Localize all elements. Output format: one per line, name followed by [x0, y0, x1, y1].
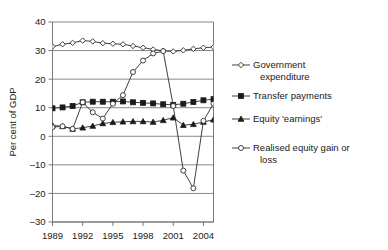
legend-label: Transfer payments: [253, 90, 332, 101]
y-tick-label: 20: [35, 74, 46, 85]
legend-marker-filled-square-icon: [239, 94, 244, 99]
data-point-marker: [80, 38, 85, 43]
data-point-marker: [151, 101, 156, 106]
data-point-marker: [191, 100, 196, 105]
legend-marker-open-diamond-icon: [238, 62, 243, 67]
x-tick-label: 1995: [102, 230, 123, 241]
y-tick-label: 40: [35, 16, 46, 27]
data-point-marker: [90, 110, 95, 115]
data-point-marker: [140, 45, 145, 50]
legend-item-2[interactable]: Equity 'earnings': [232, 113, 322, 124]
data-point-marker: [110, 101, 115, 106]
data-point-marker: [130, 43, 135, 48]
legend-label: Government: [253, 59, 306, 70]
legend-item-0[interactable]: Governmentexpenditure: [232, 59, 310, 81]
data-point-marker: [70, 104, 75, 109]
data-point-marker: [120, 42, 125, 47]
legend-marker-open-circle-icon: [239, 146, 244, 151]
data-point-marker: [50, 44, 55, 49]
data-point-marker: [70, 126, 75, 131]
data-point-marker: [60, 105, 65, 110]
data-point-marker: [60, 124, 65, 129]
data-point-marker: [141, 100, 146, 105]
data-point-marker: [90, 99, 95, 104]
x-tick-label: 1992: [72, 230, 93, 241]
legend-item-1[interactable]: Transfer payments: [232, 90, 332, 101]
legend-label: Realised equity gain or: [253, 142, 350, 153]
data-point-marker: [181, 168, 186, 173]
x-tick-label: 2001: [163, 230, 184, 241]
data-point-marker: [131, 70, 136, 75]
x-tick-label: 1989: [42, 230, 63, 241]
y-tick-label: 30: [35, 45, 46, 56]
data-point-marker: [171, 49, 176, 54]
data-point-marker: [161, 102, 166, 107]
data-point-marker: [161, 49, 166, 54]
data-point-marker: [50, 125, 55, 130]
data-point-marker: [50, 106, 55, 111]
y-tick-label: 0: [40, 131, 45, 142]
data-point-marker: [131, 100, 136, 105]
chart-figure: 403020100–10–20–30 198919921995199820012…: [0, 0, 388, 250]
y-tick-labels-group: 403020100–10–20–30: [30, 16, 46, 227]
x-tick-labels-group: 198919921995199820012004: [42, 230, 214, 241]
x-tick-label: 2004: [193, 230, 214, 241]
data-point-marker: [70, 40, 75, 45]
data-point-marker: [211, 101, 216, 106]
data-point-marker: [211, 117, 217, 122]
data-point-marker: [100, 40, 105, 45]
data-point-marker: [90, 39, 95, 44]
data-series-group: [50, 38, 217, 191]
data-point-marker: [151, 51, 156, 56]
y-tick-label: 10: [35, 102, 46, 113]
data-point-marker: [60, 42, 65, 47]
data-point-marker: [201, 98, 206, 103]
data-point-marker: [80, 100, 85, 105]
data-point-marker: [110, 41, 115, 46]
y-tick-label: –20: [30, 188, 46, 199]
legend-label: Equity 'earnings': [253, 113, 322, 124]
data-point-marker: [141, 58, 146, 63]
data-point-marker: [211, 44, 216, 49]
series-1: [50, 97, 216, 111]
y-tick-label: –10: [30, 159, 46, 170]
data-point-marker: [181, 48, 186, 53]
series-0: [50, 38, 216, 54]
y-axis-title: Per cent of GDP: [7, 87, 18, 156]
chart-canvas: 403020100–10–20–30 198919921995199820012…: [0, 0, 388, 250]
data-point-marker: [120, 93, 125, 98]
y-tick-label: –30: [30, 216, 46, 227]
data-point-marker: [201, 45, 206, 50]
data-point-marker: [191, 186, 196, 191]
data-point-marker: [120, 99, 125, 104]
x-tick-label: 1998: [132, 230, 153, 241]
y-axis-title-group: Per cent of GDP: [7, 87, 18, 156]
legend-group: GovernmentexpenditureTransfer paymentsEq…: [232, 59, 350, 164]
legend-label-line2: loss: [260, 154, 277, 165]
data-point-marker: [201, 118, 206, 123]
legend-item-3[interactable]: Realised equity gain orloss: [232, 142, 350, 164]
data-point-marker: [100, 116, 105, 121]
data-point-marker: [100, 99, 105, 104]
data-point-marker: [171, 104, 176, 109]
data-point-marker: [181, 101, 186, 106]
legend-label-line2: expenditure: [260, 71, 310, 82]
